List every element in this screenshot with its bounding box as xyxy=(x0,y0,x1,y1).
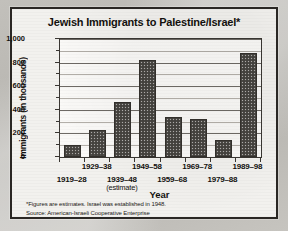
x-tick-label: 1949–58 xyxy=(132,162,162,171)
y-tick-label: 400 xyxy=(0,104,25,113)
x-axis-title: Year xyxy=(59,189,260,200)
footnote-estimates: *Figures are estimates. Israel was estab… xyxy=(26,200,166,209)
chart-footnotes: *Figures are estimates. Israel was estab… xyxy=(26,200,166,219)
plot-area xyxy=(59,38,262,158)
bar xyxy=(190,119,207,157)
footnote-source: Source: American-Israeli Cooperative Ent… xyxy=(26,209,166,218)
bar xyxy=(215,140,232,157)
x-tick-label: 1989–98 xyxy=(233,162,263,171)
gridline-minor xyxy=(60,98,261,99)
gridline-minor xyxy=(60,122,261,123)
bar xyxy=(89,130,106,157)
bar xyxy=(139,60,156,157)
x-tick-mark xyxy=(59,157,60,162)
gridline-major xyxy=(60,63,261,64)
y-tick-label: 0 xyxy=(0,152,25,161)
bar xyxy=(114,102,131,157)
x-tick-label: 1979–88 xyxy=(207,175,237,184)
y-tick-label: 1,000 xyxy=(0,34,25,43)
x-tick-label: 1959–68 xyxy=(157,175,187,184)
gridline-major xyxy=(60,110,261,111)
y-tick-label: 200 xyxy=(0,128,25,137)
x-tick-label: 1929–38 xyxy=(82,162,112,171)
x-tick-label: 1969–78 xyxy=(182,162,212,171)
x-tick-label: 1919–28 xyxy=(57,175,87,184)
gridline-major xyxy=(60,39,261,40)
gridline-minor xyxy=(60,51,261,52)
y-tick-label: 600 xyxy=(0,81,25,90)
gridline-major xyxy=(60,86,261,87)
bar xyxy=(165,117,182,157)
bar xyxy=(64,145,81,157)
y-tick-label: 800 xyxy=(0,57,25,66)
chart-title: Jewish Immigrants to Palestine/Israel* xyxy=(12,16,276,28)
chart-figure: Jewish Immigrants to Palestine/Israel* I… xyxy=(10,7,278,219)
page-background: Jewish Immigrants to Palestine/Israel* I… xyxy=(0,0,288,231)
gridline-minor xyxy=(60,74,261,75)
bar xyxy=(240,53,257,157)
